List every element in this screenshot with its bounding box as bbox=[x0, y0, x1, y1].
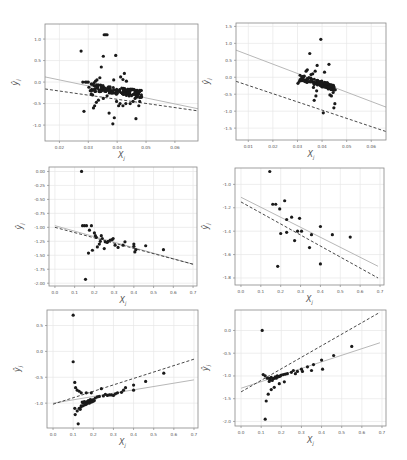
plot-area bbox=[235, 168, 384, 285]
y-tick-label: -1.25 bbox=[34, 239, 45, 244]
x-tick-label: 0.0 bbox=[52, 290, 59, 295]
subplot-bottom-left: 0.00.10.20.30.40.50.60.70.50.0-0.5-1.0Xj… bbox=[13, 310, 198, 449]
x-tick-label: 0.0 bbox=[238, 430, 245, 435]
x-tick-label: 0.05 bbox=[141, 145, 151, 150]
subplot-middle-left: 0.00.10.20.30.40.50.60.70.00-0.25-0.50-0… bbox=[15, 167, 197, 307]
subplot-top-left: 0.020.030.040.050.061.00.50.0-0.5-1.0Xjŷ… bbox=[11, 24, 198, 162]
y-tick-label: -1.75 bbox=[34, 267, 45, 272]
x-tick-label: 0.5 bbox=[150, 432, 157, 437]
x-tick-label: 0.1 bbox=[71, 290, 78, 295]
x-tick-label: 0.02 bbox=[268, 144, 278, 149]
y-tick-label: -0.75 bbox=[34, 211, 45, 216]
x-tick-label: 0.04 bbox=[113, 145, 123, 150]
y-tick-label: 0.5 bbox=[36, 323, 43, 328]
y-tick-label: -2.0 bbox=[223, 419, 232, 424]
y-axis: 0.0-0.5-1.0-1.5-2.0 bbox=[223, 328, 235, 424]
x-tick-label: 0.6 bbox=[171, 432, 178, 437]
x-tick-label: 0.04 bbox=[317, 144, 327, 149]
y-tick-label: -1.0 bbox=[224, 109, 233, 114]
x-tick-label: 0.4 bbox=[318, 430, 325, 435]
y-tick-label: -0.50 bbox=[34, 197, 45, 202]
y-tick-label: 0.0 bbox=[36, 349, 43, 354]
x-tick-label: 0.7 bbox=[191, 432, 198, 437]
y-tick-label: 1.0 bbox=[34, 37, 41, 42]
x-tick-label: 0.06 bbox=[367, 144, 377, 149]
y-tick-label: 0.0 bbox=[225, 75, 232, 80]
x-tick-label: 0.3 bbox=[297, 289, 304, 294]
y-tick-label: -1.6 bbox=[223, 252, 232, 257]
x-tick-label: 0.6 bbox=[359, 430, 366, 435]
x-tick-label: 0.6 bbox=[170, 290, 177, 295]
y-axis-label: ŷj bbox=[201, 364, 212, 372]
y-tick-label: -0.25 bbox=[34, 183, 45, 188]
y-tick-label: -2.00 bbox=[34, 281, 45, 286]
y-tick-label: -1.0 bbox=[33, 123, 42, 128]
x-axis: 0.010.020.030.040.050.06 bbox=[244, 140, 377, 149]
y-tick-label: -0.5 bbox=[223, 351, 232, 356]
x-tick-label: 0.1 bbox=[70, 432, 77, 437]
x-axis: 0.00.10.20.30.40.50.60.7 bbox=[50, 428, 198, 437]
x-tick-label: 0.03 bbox=[84, 145, 94, 150]
y-axis-label: ŷj bbox=[202, 78, 213, 86]
x-axis: 0.020.030.040.050.06 bbox=[55, 141, 180, 150]
x-axis-label: Xj bbox=[306, 436, 314, 447]
y-tick-label: 0.5 bbox=[34, 58, 41, 63]
x-tick-label: 0.4 bbox=[317, 289, 324, 294]
x-tick-label: 0.2 bbox=[277, 289, 284, 294]
y-tick-label: -1.5 bbox=[224, 126, 233, 131]
plot-area bbox=[47, 310, 198, 428]
x-tick-label: 0.05 bbox=[342, 144, 352, 149]
x-tick-label: 0.0 bbox=[238, 289, 245, 294]
y-axis: -1.0-1.2-1.4-1.6-1.8 bbox=[223, 182, 235, 281]
y-axis-label: ŷj bbox=[13, 365, 24, 373]
y-tick-label: 0.0 bbox=[34, 80, 41, 85]
x-tick-label: 0.2 bbox=[91, 290, 98, 295]
x-axis: 0.00.10.20.30.40.50.60.7 bbox=[238, 426, 386, 435]
y-tick-label: 1.0 bbox=[225, 41, 232, 46]
x-tick-label: 0.7 bbox=[377, 289, 384, 294]
y-tick-label: -1.8 bbox=[223, 275, 232, 280]
x-axis-label: Xj bbox=[119, 296, 127, 307]
y-tick-label: -1.0 bbox=[35, 401, 44, 406]
x-tick-label: 0.5 bbox=[338, 430, 345, 435]
x-axis: 0.00.10.20.30.40.50.60.7 bbox=[238, 285, 384, 294]
subplot-middle-right: 0.00.10.20.30.40.50.60.7-1.0-1.2-1.4-1.6… bbox=[201, 168, 384, 306]
subplot-top-right: 0.010.020.030.040.050.061.51.00.50.0-0.5… bbox=[202, 23, 386, 161]
y-axis-label: ŷj bbox=[15, 223, 26, 231]
x-axis: 0.00.10.20.30.40.50.60.7 bbox=[52, 286, 197, 295]
y-tick-label: -1.0 bbox=[223, 373, 232, 378]
figure: 0.020.030.040.050.061.00.50.0-0.5-1.0Xjŷ… bbox=[0, 0, 407, 460]
y-axis-label: ŷj bbox=[11, 79, 22, 87]
x-tick-label: 0.03 bbox=[293, 144, 303, 149]
y-tick-label: 0.0 bbox=[224, 328, 231, 333]
x-axis-label: Xj bbox=[117, 151, 125, 162]
x-tick-label: 0.06 bbox=[170, 145, 180, 150]
plot-area bbox=[49, 167, 197, 286]
y-axis: 1.00.50.0-0.5-1.0 bbox=[33, 37, 45, 128]
x-tick-label: 0.0 bbox=[50, 432, 57, 437]
plot-area bbox=[235, 310, 386, 426]
x-axis-label: Xj bbox=[307, 150, 315, 161]
y-axis: 0.00-0.25-0.50-0.75-1.00-1.25-1.50-1.75-… bbox=[34, 169, 49, 286]
y-tick-label: -1.0 bbox=[223, 182, 232, 187]
x-tick-label: 0.3 bbox=[298, 430, 305, 435]
x-tick-label: 0.3 bbox=[111, 290, 118, 295]
y-tick-label: -1.00 bbox=[34, 225, 45, 230]
x-tick-label: 0.02 bbox=[55, 145, 65, 150]
x-tick-label: 0.4 bbox=[130, 432, 137, 437]
x-tick-label: 0.5 bbox=[337, 289, 344, 294]
x-tick-label: 0.2 bbox=[278, 430, 285, 435]
y-tick-label: 0.00 bbox=[36, 169, 46, 174]
x-tick-label: 0.2 bbox=[90, 432, 97, 437]
x-tick-label: 0.3 bbox=[110, 432, 117, 437]
y-tick-label: -0.5 bbox=[35, 375, 44, 380]
y-tick-label: -1.5 bbox=[223, 396, 232, 401]
x-axis-label: Xj bbox=[118, 438, 126, 449]
y-tick-label: 0.5 bbox=[225, 58, 232, 63]
x-tick-label: 0.6 bbox=[357, 289, 364, 294]
y-tick-label: -1.4 bbox=[223, 229, 232, 234]
y-tick-label: -0.5 bbox=[33, 101, 42, 106]
y-axis: 0.50.0-0.5-1.0 bbox=[35, 323, 47, 406]
x-axis-label: Xj bbox=[305, 295, 313, 306]
subplot-bottom-right: 0.00.10.20.30.40.50.60.70.0-0.5-1.0-1.5-… bbox=[201, 310, 386, 447]
